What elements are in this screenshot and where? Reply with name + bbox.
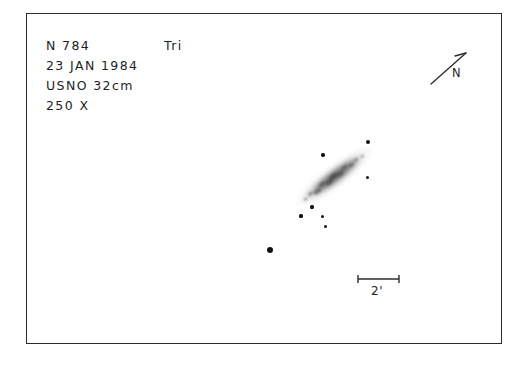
- field-star: [299, 214, 302, 217]
- sketch-sheet: N 784 Tri 23 JAN 1984 USNO 32cm 250 X N …: [0, 0, 526, 366]
- field-star: [310, 205, 313, 208]
- field-star: [321, 153, 324, 156]
- galaxy-n784: [26, 13, 502, 344]
- field-star: [366, 176, 369, 179]
- celestial-field: [26, 13, 502, 344]
- field-star: [324, 225, 327, 228]
- field-star: [321, 215, 324, 218]
